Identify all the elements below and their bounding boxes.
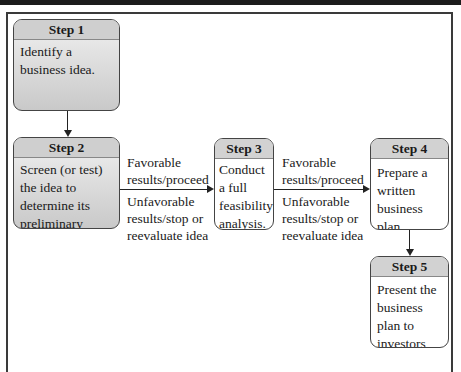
step-5-text: Present the business plan to investors a… xyxy=(371,277,448,348)
step-1-box: Step 1 Identify a business idea. xyxy=(13,19,120,111)
step-4-text: Prepare a written business plan. xyxy=(371,159,448,230)
step-2-text: Screen (or test) the idea to determine i… xyxy=(14,158,119,229)
step3-unfavorable-label: Unfavorable results/stop or reevaluate i… xyxy=(282,193,368,244)
step3-favorable-label: Favorable results/proceed xyxy=(282,154,368,188)
arrowhead-down-icon xyxy=(406,249,414,256)
step-1-text: Identify a business idea. xyxy=(14,40,119,79)
step-3-title: Step 3 xyxy=(215,139,273,159)
step-4-title: Step 4 xyxy=(371,139,448,159)
step2-favorable-label: Favorable results/proceed xyxy=(127,154,213,188)
step2-unfavorable-label: Unfavorable results/stop or reevaluate i… xyxy=(127,193,213,244)
arrow-step3-to-step4 xyxy=(274,189,364,190)
step-2-box: Step 2 Screen (or test) the idea to dete… xyxy=(13,137,120,229)
arrowhead-right-icon xyxy=(363,185,370,193)
arrowhead-right-icon xyxy=(207,185,214,193)
arrow-step4-to-step5 xyxy=(409,230,410,250)
step-2-title: Step 2 xyxy=(14,138,119,158)
arrowhead-down-icon xyxy=(64,130,72,137)
arrow-step2-to-step3 xyxy=(120,189,208,190)
step-1-title: Step 1 xyxy=(14,20,119,40)
top-caption-band xyxy=(0,0,461,5)
step-5-box: Step 5 Present the business plan to inve… xyxy=(370,256,449,348)
step-5-title: Step 5 xyxy=(371,257,448,277)
arrow-step1-to-step2 xyxy=(67,111,68,131)
step-3-text: Conduct a full feasibility analysis. xyxy=(215,159,273,230)
step-3-box: Step 3 Conduct a full feasibility analys… xyxy=(214,138,274,230)
step-4-box: Step 4 Prepare a written business plan. xyxy=(370,138,449,230)
